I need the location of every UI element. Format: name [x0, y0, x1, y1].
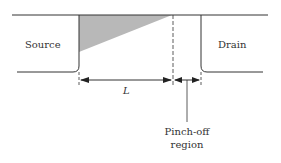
- length-arrowhead-right: [163, 77, 172, 83]
- pinchoff-arrowhead-left: [174, 77, 182, 83]
- length-arrowhead-left: [80, 77, 89, 83]
- pinchoff-label-line1: Pinch-off: [165, 126, 211, 137]
- pinchoff-arrowhead-right: [192, 77, 200, 83]
- channel-shading: [79, 15, 172, 52]
- pinchoff-label-line2: region: [171, 139, 204, 150]
- drain-label: Drain: [218, 39, 247, 50]
- length-label: L: [122, 85, 130, 96]
- mosfet-channel-diagram: Source Drain L Pinch-off region: [0, 0, 281, 163]
- source-label: Source: [25, 39, 61, 50]
